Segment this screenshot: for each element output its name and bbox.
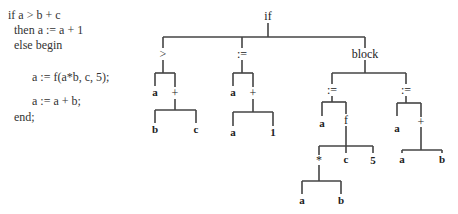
node-greater-than: >: [160, 48, 167, 60]
node-5: 5: [370, 155, 376, 166]
node-c: c: [194, 124, 199, 135]
node-a: a: [399, 154, 405, 165]
syntax-tree-edges: [0, 0, 458, 214]
node-plus: +: [172, 87, 179, 99]
node-a: a: [230, 127, 236, 138]
node-b: b: [439, 154, 445, 165]
node-plus: +: [418, 116, 425, 128]
node-a: a: [152, 87, 158, 98]
node-if: if: [264, 10, 271, 22]
node-multiply: *: [316, 154, 322, 166]
node-1: 1: [270, 127, 276, 138]
node-plus: +: [250, 87, 257, 99]
node-a: a: [230, 87, 236, 98]
node-assign: :=: [237, 48, 247, 60]
node-a: a: [299, 195, 305, 206]
node-a: a: [319, 118, 325, 129]
node-b: b: [338, 195, 344, 206]
node-assign: :=: [401, 84, 411, 96]
node-a: a: [394, 123, 400, 134]
node-b: b: [152, 124, 158, 135]
node-f: f: [344, 114, 348, 126]
node-assign: :=: [327, 84, 337, 96]
node-block: block: [352, 48, 379, 60]
node-c: c: [344, 154, 349, 165]
